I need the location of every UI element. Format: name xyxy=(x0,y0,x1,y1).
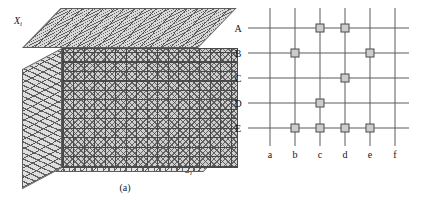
panel-b-node-grid: ABCDEabcdef (b) xyxy=(232,0,427,214)
grid-node-Ad[interactable] xyxy=(341,24,349,32)
caption-panel-a: (a) xyxy=(105,182,145,193)
row-label-D: D xyxy=(234,98,241,109)
grid-node-Ac[interactable] xyxy=(316,24,324,32)
grid-node-Ed[interactable] xyxy=(341,124,349,132)
grid-node-Cd[interactable] xyxy=(341,74,349,82)
grid-node-Bb[interactable] xyxy=(291,49,299,57)
row-label-B: B xyxy=(235,48,242,59)
grid-node-Ee[interactable] xyxy=(366,124,374,132)
row-label-A: A xyxy=(234,23,242,34)
grid-node-Eb[interactable] xyxy=(291,124,299,132)
node-grid-svg: ABCDEabcdef xyxy=(232,0,427,180)
block-face-top xyxy=(22,8,237,48)
panel-a-isometric-block: Xi Si (a) xyxy=(0,0,220,214)
column-label-d: d xyxy=(343,149,348,160)
column-label-b: b xyxy=(293,149,298,160)
column-label-a: a xyxy=(268,149,273,160)
column-label-e: e xyxy=(368,149,373,160)
column-label-f: f xyxy=(393,149,397,160)
grid-node-Be[interactable] xyxy=(366,49,374,57)
block-face-left xyxy=(22,48,62,189)
axis-label-x: Xi xyxy=(14,16,22,28)
row-label-E: E xyxy=(235,123,241,134)
grid-node-Dc[interactable] xyxy=(316,99,324,107)
block-face-front xyxy=(62,48,238,168)
column-label-c: c xyxy=(318,149,323,160)
grid-node-Ec[interactable] xyxy=(316,124,324,132)
isometric-block xyxy=(22,8,222,178)
row-label-C: C xyxy=(235,73,242,84)
figure-container: Xi Si (a) ABCDEabcdef (b) xyxy=(0,0,427,214)
